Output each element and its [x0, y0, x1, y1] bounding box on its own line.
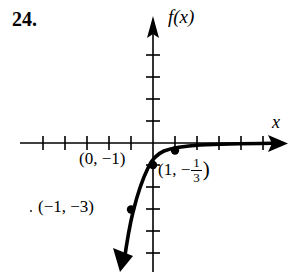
fraction-one-third: 13 [191, 156, 202, 184]
point-label-0-minus1: (0, −1) [79, 150, 125, 167]
graph-plot [0, 0, 293, 276]
point-label-suffix: ) [203, 159, 210, 180]
x-axis-label: x [272, 112, 280, 133]
marked-point-1-minus-one-third [171, 146, 179, 154]
point-label-minus1-minus3: (−1, −3) [38, 198, 94, 215]
curve-arrowhead-icon [113, 248, 133, 272]
point-label-1-minus-one-third: (1, −13) [158, 155, 210, 183]
fraction-numerator: 1 [191, 156, 202, 170]
fraction-denominator: 3 [191, 171, 202, 185]
marked-point-minus1-minus3 [127, 205, 135, 213]
figure-container: 24. [0, 0, 293, 276]
point-label-prefix: (1, − [158, 161, 190, 178]
y-axis-label: f(x) [168, 6, 194, 28]
marked-point-0-minus1 [149, 161, 157, 169]
